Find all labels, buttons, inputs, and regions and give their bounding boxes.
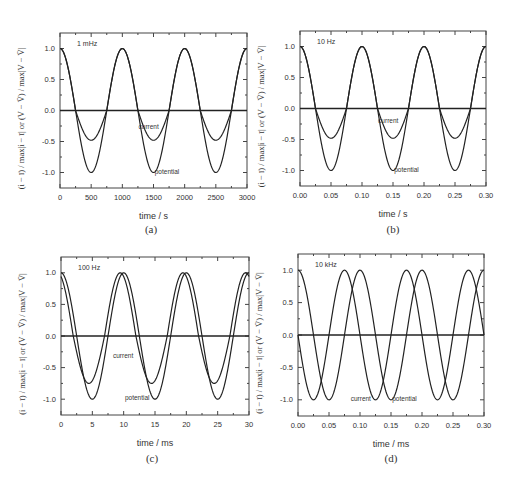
x-axis-label: time / ms	[373, 439, 410, 449]
frequency-annotation: 100 Hz	[78, 264, 101, 271]
x-tick-label: 0.05	[322, 421, 337, 430]
series-label-potential: potential	[125, 394, 150, 402]
y-tick-label: 1.0	[285, 42, 295, 51]
y-tick-label: -1.0	[43, 395, 56, 404]
y-tick-label: 0.5	[45, 75, 55, 84]
y-tick-label: -0.5	[43, 363, 56, 372]
x-tick-label: 25	[213, 420, 221, 429]
y-axis-label: (i − ī) / max|i − ī| or (V − V̄) / max|V…	[254, 272, 264, 414]
y-tick-label: -1.0	[42, 168, 55, 177]
y-axis-label: (i − ī) / max|i − ī| or (V − V̄) / max|V…	[17, 273, 27, 415]
frequency-annotation: 10 kHz	[315, 261, 337, 268]
y-tick-label: 0.0	[46, 332, 56, 341]
x-tick-label: 2000	[176, 193, 193, 202]
x-tick-label: 0.10	[355, 191, 370, 200]
x-axis-label: time / ms	[137, 438, 174, 448]
series-current	[61, 273, 249, 384]
y-tick-label: 1.0	[45, 44, 55, 53]
y-tick-label: -0.5	[282, 135, 295, 144]
x-tick-label: 0.15	[386, 191, 401, 200]
x-tick-label: 0.25	[446, 421, 461, 430]
y-tick-label: 0.0	[283, 331, 293, 340]
panel-c: 051015202530-1.0-0.50.00.51.0potentialcu…	[17, 257, 253, 448]
series-label-current: current	[351, 395, 371, 402]
panel-d: 0.000.050.100.150.200.250.30-1.0-0.50.00…	[254, 254, 491, 449]
x-axis-label: time / s	[139, 211, 169, 221]
y-tick-label: 1.0	[283, 266, 293, 275]
y-tick-label: 0.0	[45, 106, 55, 115]
x-tick-label: 0.00	[291, 421, 306, 430]
y-tick-label: 0.5	[285, 73, 295, 82]
x-tick-label: 0.10	[353, 421, 368, 430]
series-label-current: current	[139, 123, 159, 130]
y-tick-label: -0.5	[42, 137, 55, 146]
series-label-potential: potential	[155, 168, 180, 176]
x-tick-label: 1500	[145, 193, 162, 202]
x-tick-label: 3000	[239, 193, 256, 202]
series-label-potential: potential	[392, 395, 417, 403]
caption-a: (a)	[131, 223, 171, 235]
series-label-potential: potential	[394, 166, 419, 174]
caption-c: (c)	[132, 452, 172, 464]
x-tick-label: 30	[245, 420, 253, 429]
x-tick-label: 0.05	[324, 191, 339, 200]
y-tick-label: -0.5	[280, 363, 293, 372]
x-tick-label: 2500	[207, 193, 224, 202]
y-tick-label: -1.0	[280, 395, 293, 404]
x-tick-label: 500	[85, 193, 98, 202]
x-tick-label: 0.30	[479, 191, 494, 200]
x-tick-label: 0.30	[477, 421, 492, 430]
caption-b: (b)	[373, 223, 413, 235]
x-tick-label: 0.20	[417, 191, 432, 200]
panel-a: 050010001500200025003000-1.0-0.50.00.51.…	[16, 33, 255, 221]
x-tick-label: 10	[119, 420, 127, 429]
y-tick-label: 1.0	[46, 268, 56, 277]
x-tick-label: 15	[151, 420, 159, 429]
x-tick-label: 0	[58, 193, 62, 202]
x-tick-label: 0.00	[293, 191, 308, 200]
panel-b: 0.000.050.100.150.200.250.30-1.0-0.50.00…	[256, 31, 493, 219]
y-tick-label: 0.5	[46, 300, 56, 309]
x-tick-label: 0	[59, 420, 63, 429]
y-axis-label: (i − ī) / max|i − ī| or (V − V̄) / max|V…	[256, 45, 266, 187]
x-tick-label: 0.15	[384, 421, 399, 430]
x-tick-label: 5	[90, 420, 94, 429]
y-tick-label: -1.0	[282, 166, 295, 175]
y-axis-label: (i − ī) / max|i − ī| or (V − V̄) / max|V…	[16, 47, 26, 189]
x-axis-label: time / s	[378, 209, 408, 219]
series-label-current: current	[113, 352, 133, 359]
frequency-annotation: 1 mHz	[77, 40, 98, 47]
caption-d: (d)	[371, 452, 411, 464]
figure-canvas: 050010001500200025003000-1.0-0.50.00.51.…	[0, 0, 508, 485]
x-tick-label: 0.20	[415, 421, 430, 430]
x-tick-label: 1000	[114, 193, 131, 202]
frequency-annotation: 10 Hz	[317, 38, 336, 45]
series-label-current: current	[378, 117, 398, 124]
y-tick-label: 0.0	[285, 104, 295, 113]
series-current	[300, 47, 486, 139]
x-tick-label: 20	[182, 420, 190, 429]
x-tick-label: 0.25	[448, 191, 463, 200]
y-tick-label: 0.5	[283, 298, 293, 307]
